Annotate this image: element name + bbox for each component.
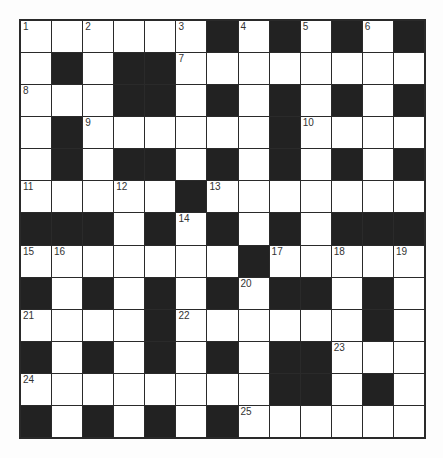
crossword-cell[interactable]: [114, 342, 144, 373]
crossword-cell[interactable]: [114, 310, 144, 341]
crossword-cell[interactable]: [176, 406, 206, 437]
crossword-cell[interactable]: [394, 278, 424, 309]
crossword-cell[interactable]: [332, 181, 362, 212]
crossword-cell[interactable]: [394, 406, 424, 437]
crossword-cell[interactable]: [176, 85, 206, 116]
crossword-cell[interactable]: 3: [176, 21, 206, 52]
crossword-cell[interactable]: [114, 278, 144, 309]
crossword-cell[interactable]: [114, 213, 144, 244]
crossword-cell[interactable]: [394, 310, 424, 341]
crossword-cell[interactable]: [301, 213, 331, 244]
crossword-cell[interactable]: [239, 374, 269, 405]
crossword-cell[interactable]: [363, 117, 393, 148]
crossword-cell[interactable]: [207, 53, 237, 84]
crossword-cell[interactable]: [176, 117, 206, 148]
crossword-cell[interactable]: [52, 85, 82, 116]
crossword-cell[interactable]: [83, 149, 113, 180]
crossword-cell[interactable]: [332, 310, 362, 341]
crossword-cell[interactable]: [145, 374, 175, 405]
crossword-cell[interactable]: [394, 117, 424, 148]
crossword-cell[interactable]: 1: [21, 21, 51, 52]
crossword-cell[interactable]: [394, 181, 424, 212]
crossword-cell[interactable]: [363, 53, 393, 84]
crossword-cell[interactable]: [363, 181, 393, 212]
crossword-cell[interactable]: [176, 342, 206, 373]
crossword-cell[interactable]: 16: [52, 246, 82, 277]
crossword-cell[interactable]: 20: [239, 278, 269, 309]
crossword-cell[interactable]: [145, 21, 175, 52]
crossword-cell[interactable]: [145, 246, 175, 277]
crossword-cell[interactable]: [176, 374, 206, 405]
crossword-cell[interactable]: [52, 342, 82, 373]
crossword-cell[interactable]: [21, 149, 51, 180]
crossword-cell[interactable]: 4: [239, 21, 269, 52]
crossword-cell[interactable]: 25: [239, 406, 269, 437]
crossword-cell[interactable]: 17: [270, 246, 300, 277]
crossword-cell[interactable]: [239, 181, 269, 212]
crossword-cell[interactable]: [83, 310, 113, 341]
crossword-cell[interactable]: [114, 406, 144, 437]
crossword-cell[interactable]: [332, 278, 362, 309]
crossword-cell[interactable]: [83, 246, 113, 277]
crossword-cell[interactable]: [394, 374, 424, 405]
crossword-cell[interactable]: 24: [21, 374, 51, 405]
crossword-cell[interactable]: [52, 181, 82, 212]
crossword-cell[interactable]: [145, 117, 175, 148]
crossword-cell[interactable]: 11: [21, 181, 51, 212]
crossword-cell[interactable]: [270, 406, 300, 437]
crossword-cell[interactable]: [114, 246, 144, 277]
crossword-cell[interactable]: [239, 310, 269, 341]
crossword-cell[interactable]: 15: [21, 246, 51, 277]
crossword-cell[interactable]: 5: [301, 21, 331, 52]
crossword-cell[interactable]: 6: [363, 21, 393, 52]
crossword-cell[interactable]: [207, 117, 237, 148]
crossword-cell[interactable]: [301, 310, 331, 341]
crossword-cell[interactable]: 10: [301, 117, 331, 148]
crossword-cell[interactable]: 21: [21, 310, 51, 341]
crossword-cell[interactable]: [83, 53, 113, 84]
crossword-cell[interactable]: [301, 406, 331, 437]
crossword-cell[interactable]: [239, 342, 269, 373]
crossword-cell[interactable]: [301, 53, 331, 84]
crossword-cell[interactable]: 22: [176, 310, 206, 341]
crossword-cell[interactable]: [301, 181, 331, 212]
crossword-cell[interactable]: [394, 53, 424, 84]
crossword-cell[interactable]: [21, 53, 51, 84]
crossword-cell[interactable]: [332, 406, 362, 437]
crossword-cell[interactable]: [301, 149, 331, 180]
crossword-cell[interactable]: [363, 406, 393, 437]
crossword-cell[interactable]: [363, 246, 393, 277]
crossword-cell[interactable]: [207, 374, 237, 405]
crossword-cell[interactable]: [301, 85, 331, 116]
crossword-cell[interactable]: [239, 53, 269, 84]
crossword-cell[interactable]: 8: [21, 85, 51, 116]
crossword-cell[interactable]: 7: [176, 53, 206, 84]
crossword-cell[interactable]: 23: [332, 342, 362, 373]
crossword-cell[interactable]: [52, 278, 82, 309]
crossword-cell[interactable]: [145, 181, 175, 212]
crossword-cell[interactable]: 19: [394, 246, 424, 277]
crossword-cell[interactable]: [52, 374, 82, 405]
crossword-cell[interactable]: [270, 53, 300, 84]
crossword-cell[interactable]: [332, 374, 362, 405]
crossword-cell[interactable]: [114, 374, 144, 405]
crossword-cell[interactable]: [114, 117, 144, 148]
crossword-cell[interactable]: [83, 374, 113, 405]
crossword-cell[interactable]: [270, 181, 300, 212]
crossword-cell[interactable]: [21, 117, 51, 148]
crossword-cell[interactable]: 9: [83, 117, 113, 148]
crossword-cell[interactable]: [207, 310, 237, 341]
crossword-cell[interactable]: [332, 117, 362, 148]
crossword-cell[interactable]: [176, 246, 206, 277]
crossword-cell[interactable]: [207, 246, 237, 277]
crossword-cell[interactable]: [363, 342, 393, 373]
crossword-cell[interactable]: [83, 181, 113, 212]
crossword-cell[interactable]: [176, 278, 206, 309]
crossword-cell[interactable]: [239, 85, 269, 116]
crossword-cell[interactable]: 14: [176, 213, 206, 244]
crossword-cell[interactable]: 18: [332, 246, 362, 277]
crossword-cell[interactable]: [176, 149, 206, 180]
crossword-cell[interactable]: [239, 213, 269, 244]
crossword-cell[interactable]: [363, 149, 393, 180]
crossword-cell[interactable]: [363, 85, 393, 116]
